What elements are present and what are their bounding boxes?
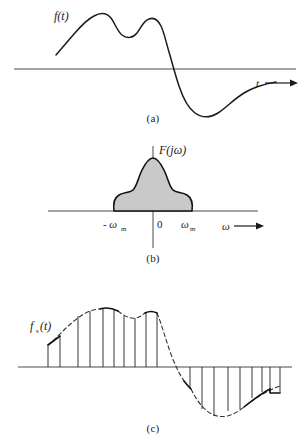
panel-c-envelope-mid	[118, 311, 145, 318]
panel-b-signal-label: F(jω)	[158, 143, 186, 157]
panel-b-spectrum-shape	[114, 158, 193, 211]
svg-text:- ω: - ω	[103, 218, 117, 230]
svg-text:(t): (t)	[40, 319, 51, 333]
panel-c-signal-label: f s (t)	[30, 319, 51, 335]
panel-c-caption: (c)	[0, 422, 306, 434]
panel-a-caption: (a)	[0, 112, 306, 124]
panel-b-tick-negative: - ω m	[103, 218, 127, 233]
panel-c-hold-top-5	[244, 389, 270, 407]
svg-text:m: m	[190, 225, 196, 233]
panel-b-axis-arrow-icon	[234, 223, 264, 230]
svg-text:f: f	[30, 319, 35, 333]
panel-c-hold-top-1	[48, 336, 60, 345]
sampling-theorem-figure: f(t) t (a) F(jω) - ω m 0	[0, 0, 306, 446]
svg-text:s: s	[36, 327, 39, 335]
panel-b-axis-label: ω	[222, 220, 230, 232]
panel-c-hold-top-3	[145, 312, 157, 314]
panel-a-waveform	[56, 14, 276, 117]
panel-c-sample-stems-positive	[48, 309, 157, 367]
svg-text:m: m	[121, 225, 127, 233]
panel-a-axis-label: t	[256, 77, 260, 89]
panel-b-tick-zero: 0	[157, 218, 163, 230]
panel-b-tick-positive: ω m	[181, 218, 196, 233]
panel-b-caption: (b)	[0, 252, 306, 264]
panel-a-signal-label: f(t)	[54, 9, 69, 23]
panel-c-envelope-fall	[157, 313, 184, 381]
svg-text:ω: ω	[181, 218, 189, 230]
panel-a-axis-arrow-icon	[265, 80, 298, 87]
